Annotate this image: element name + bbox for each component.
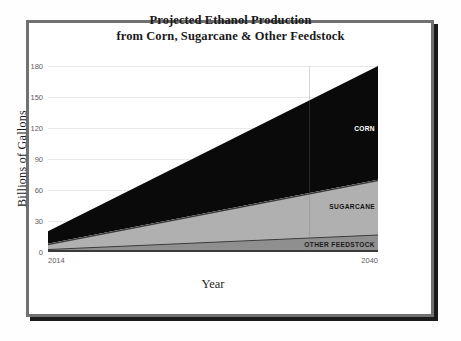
figure-root: Projected Ethanol Production from Corn, …	[0, 0, 461, 341]
stacked-area-series	[48, 66, 378, 252]
x-tick-label-start: 2014	[48, 256, 65, 265]
chart-title-line-2: from Corn, Sugarcane & Other Feedstock	[0, 28, 461, 44]
y-tick-label-120: 120	[30, 124, 43, 133]
series-label-corn: CORN	[354, 125, 375, 132]
y-axis-title: Billions of Gallons	[14, 66, 30, 252]
vertical-guide-line	[309, 66, 310, 252]
series-label-other-feedstock: OTHER FEEDSTOCK	[304, 241, 375, 248]
chart-title: Projected Ethanol Production from Corn, …	[0, 12, 461, 44]
y-axis-title-text: Billions of Gallons	[15, 110, 30, 207]
y-tick-label-150: 150	[30, 93, 43, 102]
plot-area: 180 150 120 90 60 30 0 CORN SUGARCANE OT…	[48, 66, 378, 252]
y-tick-label-180: 180	[30, 62, 43, 71]
y-tick-label-0: 0	[39, 248, 43, 257]
chart-title-line-1: Projected Ethanol Production	[0, 12, 461, 28]
series-label-sugarcane: SUGARCANE	[329, 203, 375, 210]
x-axis-line	[48, 250, 378, 252]
y-tick-label-90: 90	[35, 155, 43, 164]
x-axis-title: Year	[48, 277, 378, 292]
y-tick-label-30: 30	[35, 217, 43, 226]
x-tick-label-end: 2040	[361, 256, 378, 265]
y-tick-label-60: 60	[35, 186, 43, 195]
